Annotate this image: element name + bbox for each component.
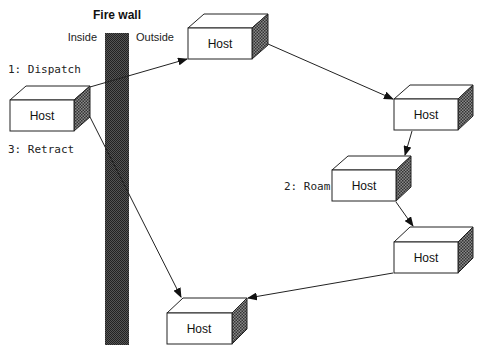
arrow-roam-2	[405, 131, 412, 155]
host-label: Host	[30, 109, 55, 123]
host-outside-2: Host	[394, 85, 473, 130]
arrow-roam-4	[248, 273, 393, 298]
step-roam-label: 2: Roam	[284, 180, 331, 193]
mobile-agent-diagram: Fire wall Inside Outside 1: Dispatch 2: …	[0, 0, 482, 360]
firewall: Fire wall Inside Outside	[68, 8, 174, 345]
host-outside-1: Host	[188, 14, 268, 59]
host-outside-5: Host	[167, 298, 247, 344]
outside-label: Outside	[136, 31, 174, 43]
host-label: Host	[208, 37, 233, 51]
host-origin: Host	[10, 86, 90, 131]
host-label: Host	[414, 108, 439, 122]
host-label: Host	[414, 251, 439, 265]
host-label: Host	[187, 322, 212, 336]
host-label: Host	[352, 179, 377, 193]
step-dispatch-label: 1: Dispatch	[8, 63, 81, 76]
host-outside-3: Host	[332, 156, 411, 201]
arrow-retract	[90, 117, 181, 297]
host-outside-4: Host	[394, 227, 473, 273]
arrow-roam-3	[396, 202, 413, 226]
arrow-roam-1	[268, 44, 393, 99]
inside-label: Inside	[68, 31, 97, 43]
firewall-title: Fire wall	[93, 8, 141, 22]
arrow-dispatch	[90, 59, 187, 87]
step-retract-label: 3: Retract	[8, 143, 74, 156]
